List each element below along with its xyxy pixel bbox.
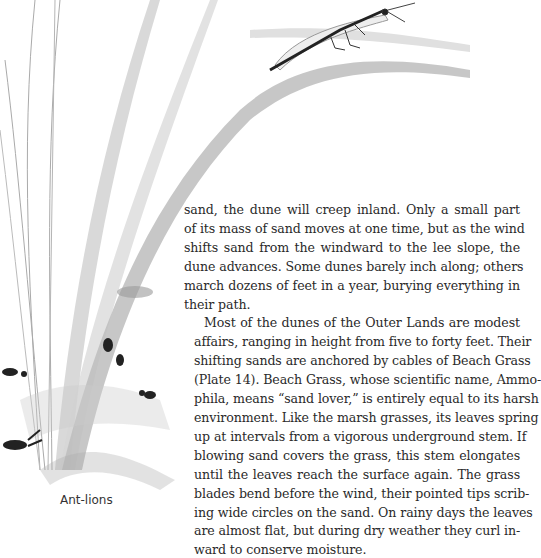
text-line: shifting sands are anchored by cables of…: [184, 352, 520, 371]
text-line: blades bend before the wind, their point…: [184, 485, 520, 504]
text-line: dune advances. Some dunes barely inch al…: [184, 258, 520, 277]
text-line: sand, the dune will creep inland. Only a…: [184, 201, 520, 220]
text-line: shifts sand from the windward to the lee…: [184, 239, 520, 258]
text-line: environment. Like the marsh grasses, its…: [184, 409, 520, 428]
text-line: ward to conserve moisture.: [184, 541, 520, 558]
text-line: Most of the dunes of the Outer Lands are…: [184, 314, 520, 333]
text-line: their path.: [184, 296, 520, 315]
text-line: of its mass of sand moves at one time, b…: [184, 220, 520, 239]
paragraph-1: sand, the dune will creep inland. Only a…: [184, 201, 520, 314]
figure-caption: Ant-lions: [60, 493, 113, 507]
text-line: (Plate 14). Beach Grass, whose scientifi…: [184, 371, 520, 390]
paragraph-2: Most of the dunes of the Outer Lands are…: [184, 314, 520, 558]
text-line: blowing sand covers the grass, this stem…: [184, 447, 520, 466]
text-line: phila, means “sand lover,” is entirely e…: [184, 390, 520, 409]
body-text: sand, the dune will creep inland. Only a…: [184, 201, 520, 558]
text-line: march dozens of feet in a year, burying …: [184, 277, 520, 296]
text-line: affairs, ranging in height from five to …: [184, 333, 520, 352]
text-line: are almost flat, but during dry weather …: [184, 522, 520, 541]
text-line: up at intervals from a vigorous undergro…: [184, 428, 520, 447]
text-line: ing wide circles on the sand. On rainy d…: [184, 504, 520, 523]
text-line: until the leaves reach the surface again…: [184, 466, 520, 485]
